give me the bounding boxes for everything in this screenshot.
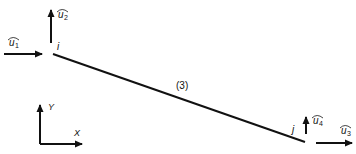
truss-element-diagram: (3) i u 1 u 2 j u 4 u 3 (0, 0, 356, 154)
u1-label: u 1 (8, 37, 19, 49)
svg-text:3: 3 (347, 130, 351, 137)
diagram-canvas: (3) i u 1 u 2 j u 4 u 3 (0, 0, 356, 154)
element-label: (3) (176, 80, 188, 91)
svg-text:4: 4 (319, 120, 323, 127)
svg-text:2: 2 (64, 14, 68, 21)
u2-label: u 2 (57, 9, 68, 21)
node-j-label: j (290, 124, 295, 135)
x-axis-label: X (73, 128, 81, 138)
u3-label: u 3 (340, 125, 351, 137)
element-line (53, 54, 305, 142)
svg-text:1: 1 (15, 42, 19, 49)
node-i-label: i (57, 41, 60, 52)
y-axis-label: Y (48, 102, 55, 112)
u4-label: u 4 (312, 115, 323, 127)
